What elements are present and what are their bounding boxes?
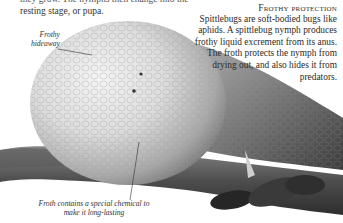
sidebar-body: Spittlebugs are soft-bodied bugs like ap… — [187, 14, 337, 84]
sidebar-heading: Frothy protection — [187, 2, 337, 14]
label-froth-chemical: Froth contains a special chemical to mak… — [34, 199, 154, 217]
sidebar-box: Frothy protection Spittlebugs are soft-b… — [187, 2, 337, 83]
label-frothy-hideaway: Frothy hideaway — [22, 30, 60, 48]
